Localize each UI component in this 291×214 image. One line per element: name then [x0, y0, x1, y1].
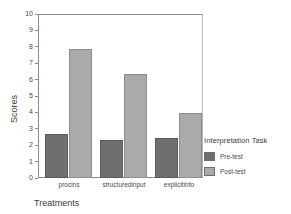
y-tick-label: 1 — [0, 157, 38, 167]
x-tick-label-explicitinfo: explicitinfo — [149, 180, 209, 190]
bar-group — [155, 14, 203, 178]
bar-pre-test — [45, 134, 68, 178]
x-axis-title: Treatments — [34, 198, 79, 208]
y-tick-label: 9 — [0, 25, 38, 35]
legend-title: Interpretation Task — [204, 136, 290, 145]
legend-label-post-test: Post-test — [220, 168, 246, 175]
legend-swatch-post-test — [204, 167, 215, 176]
legend: Interpretation Task Pre-test Post-test — [204, 136, 290, 182]
bar-pre-test — [100, 140, 123, 178]
bar-post-test — [179, 113, 202, 178]
y-tick-label: 6 — [0, 75, 38, 85]
y-axis: 10 9 8 7 6 5 4 3 2 1 0 — [0, 14, 38, 178]
y-tick-label: 10 — [0, 9, 38, 19]
bar-group — [45, 14, 93, 178]
y-axis-title: Scores — [9, 79, 19, 139]
y-tick-label: 0 — [0, 173, 38, 183]
x-tick-label-procins: procins — [39, 180, 99, 190]
bar-group — [100, 14, 148, 178]
legend-item-pre-test: Pre-test — [204, 152, 290, 161]
bar-chart: 10 9 8 7 6 5 4 3 2 1 0 Scores procins st… — [0, 0, 291, 214]
legend-label-pre-test: Pre-test — [220, 153, 243, 160]
x-axis: procins structuredinput explicitinfo — [39, 180, 203, 192]
y-tick-label: 4 — [0, 107, 38, 117]
y-tick-label: 2 — [0, 140, 38, 150]
legend-item-post-test: Post-test — [204, 167, 290, 176]
bar-post-test — [69, 49, 92, 178]
y-tick-label: 7 — [0, 58, 38, 68]
legend-swatch-pre-test — [204, 152, 215, 161]
x-tick-label-structuredinput: structuredinput — [94, 180, 154, 190]
bars-layer — [39, 14, 203, 178]
bar-post-test — [124, 74, 147, 178]
y-tick-label: 8 — [0, 42, 38, 52]
y-tick-label: 3 — [0, 124, 38, 134]
y-tick-label: 5 — [0, 91, 38, 101]
bar-pre-test — [155, 138, 178, 178]
